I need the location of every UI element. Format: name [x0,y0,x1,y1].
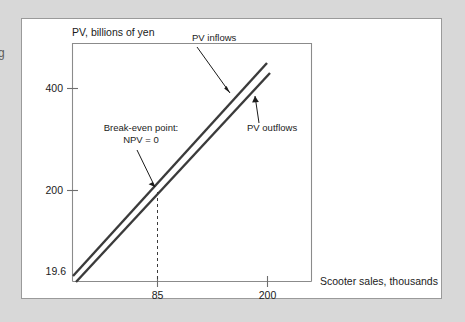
x-tick-label-200: 200 [259,289,277,301]
y-axis-title: PV, billions of yen [72,26,155,38]
chart-canvas: 400 200 19.6 85 200 PV, billions of yen … [0,0,465,322]
series-line-pv-outflows [76,73,270,282]
annotation-breakeven-arrow [137,150,155,187]
annotation-breakeven-label-line2: NPV = 0 [123,134,159,145]
annotation-pv-inflows-label: PV inflows [192,32,237,43]
y-tick-label-origin: 19.6 [46,265,67,277]
series-line-pv-inflows [73,63,267,276]
annotation-breakeven-label-line1: Break-even point: [104,122,178,133]
annotation-pv-inflows-arrow [197,47,230,93]
x-tick-label-85: 85 [152,289,164,301]
annotation-pv-outflows-arrow [252,96,259,123]
y-tick-label-400: 400 [45,82,63,94]
x-axis-title: Scooter sales, thousands [320,275,438,287]
annotation-pv-outflows-label: PV outflows [247,122,297,133]
y-tick-label-200: 200 [45,184,63,196]
